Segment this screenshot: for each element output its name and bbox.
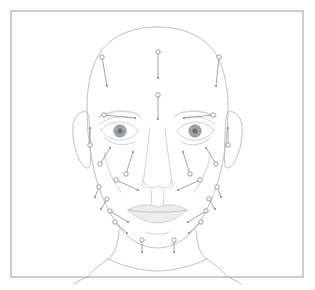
marker-target-dot[interactable]: [187, 221, 189, 223]
marker-entry-circle[interactable]: [108, 209, 112, 213]
marker-entry-circle[interactable]: [102, 113, 106, 117]
marker-target-dot[interactable]: [157, 77, 159, 79]
marker-entry-circle[interactable]: [172, 238, 176, 242]
marker-entry-circle[interactable]: [98, 162, 102, 166]
marker-entry-circle[interactable]: [215, 185, 219, 189]
marker-entry-circle[interactable]: [217, 55, 221, 59]
marker-target-dot[interactable]: [106, 85, 108, 87]
marker-entry-circle[interactable]: [207, 197, 211, 201]
marker-target-dot[interactable]: [183, 117, 185, 119]
marker-target-dot[interactable]: [214, 208, 216, 210]
marker-entry-circle[interactable]: [88, 143, 92, 147]
marker-entry-circle[interactable]: [124, 172, 128, 176]
marker-target-dot[interactable]: [227, 127, 229, 129]
facial-point-map-figure: [0, 0, 315, 290]
marker-target-dot[interactable]: [126, 232, 128, 234]
marker-target-dot[interactable]: [94, 196, 96, 198]
marker-target-dot[interactable]: [109, 147, 111, 149]
marker-target-dot[interactable]: [173, 251, 175, 253]
marker-entry-circle[interactable]: [114, 178, 118, 182]
marker-target-dot[interactable]: [100, 208, 102, 210]
marker-entry-circle[interactable]: [97, 185, 101, 189]
marker-target-dot[interactable]: [141, 251, 143, 253]
marker-target-dot[interactable]: [215, 85, 217, 87]
pupil-right: [192, 128, 197, 133]
marker-entry-circle[interactable]: [100, 55, 104, 59]
marker-target-dot[interactable]: [188, 232, 190, 234]
marker-entry-circle[interactable]: [113, 220, 117, 224]
marker-target-dot[interactable]: [220, 196, 222, 198]
marker-entry-circle[interactable]: [226, 143, 230, 147]
marker-entry-circle[interactable]: [156, 93, 160, 97]
marker-target-dot[interactable]: [205, 147, 207, 149]
marker-entry-circle[interactable]: [211, 113, 215, 117]
marker-entry-circle[interactable]: [188, 172, 192, 176]
marker-entry-circle[interactable]: [105, 197, 109, 201]
marker-target-dot[interactable]: [127, 221, 129, 223]
marker-entry-circle[interactable]: [140, 238, 144, 242]
marker-target-dot[interactable]: [177, 189, 179, 191]
marker-target-dot[interactable]: [157, 118, 159, 120]
marker-target-dot[interactable]: [134, 117, 136, 119]
marker-target-dot[interactable]: [137, 189, 139, 191]
marker-entry-circle[interactable]: [199, 220, 203, 224]
marker-entry-circle[interactable]: [156, 50, 160, 54]
pupil-left: [117, 128, 122, 133]
marker-entry-circle[interactable]: [214, 162, 218, 166]
marker-target-dot[interactable]: [89, 127, 91, 129]
marker-target-dot[interactable]: [182, 151, 184, 153]
marker-entry-circle[interactable]: [204, 209, 208, 213]
marker-entry-circle[interactable]: [198, 178, 202, 182]
face-diagram-canvas: [0, 0, 315, 290]
marker-target-dot[interactable]: [132, 151, 134, 153]
